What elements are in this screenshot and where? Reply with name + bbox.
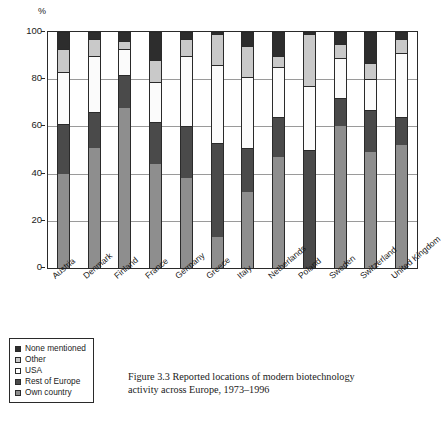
bar-segment-own — [181, 178, 192, 268]
y-axis-unit-label: % — [38, 6, 46, 16]
legend-item-other[interactable]: Other — [15, 354, 86, 365]
bar-segment-other — [335, 44, 346, 58]
y-axis-tick-mark — [41, 173, 45, 174]
stacked-bar[interactable] — [241, 32, 254, 268]
y-axis-tick-mark — [41, 31, 45, 32]
caption-line-1: Figure 3.3 Reported locations of modern … — [128, 371, 420, 384]
bar-segment-other — [119, 41, 130, 48]
bar-segment-other — [365, 63, 376, 80]
bar-segment-own — [58, 174, 69, 268]
legend-item-label: USA — [25, 365, 42, 376]
bar-segment-own — [89, 148, 100, 268]
bar-slot — [387, 32, 417, 268]
stacked-bar[interactable] — [180, 32, 193, 268]
y-axis-tick-mark — [41, 220, 45, 221]
bar-segment-other — [273, 56, 284, 68]
legend-swatch-icon — [15, 357, 21, 363]
y-axis-tick-label: 40 — [0, 168, 42, 177]
legend-item-label: None mentioned — [25, 343, 86, 354]
stacked-bar[interactable] — [272, 32, 285, 268]
bar-segment-own — [396, 145, 407, 268]
bar-segment-own — [150, 164, 161, 268]
legend-swatch-icon — [15, 390, 21, 396]
bar-segment-own — [119, 108, 130, 268]
bar-segment-own — [273, 157, 284, 268]
bar-segment-none — [396, 32, 407, 39]
bar-segment-other — [89, 39, 100, 56]
bar-segment-usa — [212, 65, 223, 143]
bar-slot — [79, 32, 109, 268]
bar-segment-own — [335, 126, 346, 268]
legend-swatch-icon — [15, 368, 21, 374]
bar-segment-none — [119, 32, 130, 41]
y-axis-tick-mark — [41, 125, 45, 126]
stacked-bar[interactable] — [334, 32, 347, 268]
bar-segment-usa — [89, 56, 100, 113]
x-axis-labels: AustriaDenmarkFinlandFranceGermanyGreece… — [47, 271, 418, 329]
bar-segment-rest — [335, 98, 346, 126]
legend-item-usa[interactable]: USA — [15, 365, 86, 376]
legend-swatch-icon — [15, 379, 21, 385]
bar-slot — [264, 32, 294, 268]
plot-area — [47, 31, 418, 269]
bar-slot — [48, 32, 78, 268]
bar-segment-rest — [150, 122, 161, 164]
bar-segment-usa — [181, 56, 192, 127]
bar-segment-usa — [242, 77, 253, 148]
bar-segment-none — [242, 32, 253, 46]
legend-item-label: Other — [25, 354, 46, 365]
y-axis-tick-label: 60 — [0, 120, 42, 129]
bar-segment-usa — [273, 67, 284, 117]
legend-item-none[interactable]: None mentioned — [15, 343, 86, 354]
bar-slot — [294, 32, 324, 268]
bar-segment-own — [242, 192, 253, 268]
bar-slot — [171, 32, 201, 268]
y-axis-tick-mark — [41, 267, 45, 268]
stacked-bar[interactable] — [364, 32, 377, 268]
bar-segment-other — [150, 60, 161, 81]
stacked-bar[interactable] — [57, 32, 70, 268]
y-axis-tick-mark — [41, 78, 45, 79]
bar-slot — [110, 32, 140, 268]
bar-segment-none — [335, 32, 346, 44]
legend-item-own[interactable]: Own country — [15, 387, 86, 398]
bar-segment-other — [304, 34, 315, 86]
stacked-bar[interactable] — [303, 32, 316, 268]
stacked-bar[interactable] — [395, 32, 408, 268]
stacked-bar[interactable] — [211, 32, 224, 268]
bar-segment-rest — [89, 112, 100, 147]
stacked-bar[interactable] — [118, 32, 131, 268]
bar-segment-other — [58, 49, 69, 73]
bar-segment-rest — [212, 143, 223, 237]
legend-item-label: Rest of Europe — [25, 376, 80, 387]
caption-line-2: activity across Europe, 1973–1996 — [128, 384, 420, 397]
bar-segment-rest — [273, 117, 284, 157]
legend-item-rest[interactable]: Rest of Europe — [15, 376, 86, 387]
bar-segment-usa — [365, 79, 376, 110]
stacked-bar[interactable] — [88, 32, 101, 268]
bar-slot — [233, 32, 263, 268]
bar-group — [48, 32, 417, 268]
bar-segment-none — [181, 32, 192, 39]
bar-segment-none — [150, 32, 161, 60]
stacked-bar[interactable] — [149, 32, 162, 268]
bar-segment-none — [365, 32, 376, 63]
bar-segment-other — [396, 39, 407, 53]
bar-segment-rest — [119, 75, 130, 108]
figure-caption: Figure 3.3 Reported locations of modern … — [128, 371, 420, 396]
bar-segment-rest — [242, 148, 253, 193]
bar-slot — [325, 32, 355, 268]
bar-segment-usa — [396, 53, 407, 117]
legend-item-label: Own country — [25, 387, 72, 398]
bar-segment-usa — [150, 82, 161, 122]
y-axis-tick-label: 100 — [0, 26, 42, 35]
bar-slot — [356, 32, 386, 268]
bar-slot — [202, 32, 232, 268]
bar-segment-usa — [304, 86, 315, 150]
plot-inner — [48, 32, 417, 268]
bar-segment-none — [89, 32, 100, 39]
bar-segment-own — [365, 152, 376, 268]
bar-slot — [141, 32, 171, 268]
bar-segment-usa — [58, 72, 69, 124]
